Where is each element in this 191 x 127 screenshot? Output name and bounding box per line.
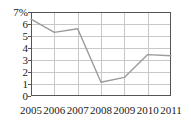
x-axis-tick-label: 2007 <box>67 105 89 116</box>
x-axis-tick-label: 2010 <box>137 105 159 116</box>
x-axis-tick-label: 2005 <box>20 105 42 116</box>
x-axis-tick-label: 2011 <box>160 105 182 116</box>
x-axis-tick-label: 2009 <box>113 105 135 116</box>
x-axis-tick-label: 2006 <box>43 105 65 116</box>
line-chart: 7%6543210 2005200620072008200920102011 <box>0 0 191 127</box>
x-axis-tick-label: 2008 <box>90 105 112 116</box>
x-axis-labels: 2005200620072008200920102011 <box>0 0 191 127</box>
